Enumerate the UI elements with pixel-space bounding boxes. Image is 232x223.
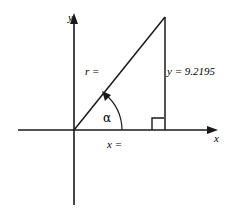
diagram-canvas <box>0 0 232 223</box>
hypotenuse-label: r = <box>85 66 99 77</box>
geometry-diagram: y x r = y = 9.2195 x = α <box>0 0 232 223</box>
angle-arc-arrowhead <box>102 91 111 101</box>
adjacent-side-label: x = <box>107 139 122 150</box>
right-angle-marker <box>152 118 164 130</box>
x-axis-label: x <box>214 133 219 144</box>
y-axis-label: y <box>68 12 73 23</box>
angle-alpha-label: α <box>103 112 111 124</box>
opposite-side-label: y = 9.2195 <box>167 66 215 77</box>
